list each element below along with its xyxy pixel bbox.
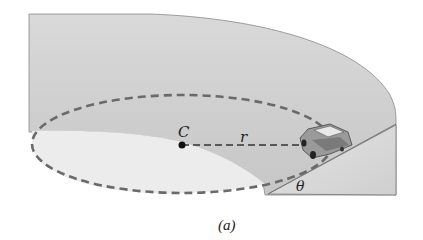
banked-curve-diagram: C r θ (a) bbox=[0, 0, 423, 240]
center-point bbox=[179, 142, 186, 149]
radius-label: r bbox=[240, 128, 248, 146]
angle-label: θ bbox=[296, 178, 305, 194]
figure-caption: (a) bbox=[218, 217, 236, 234]
center-label: C bbox=[178, 123, 190, 141]
